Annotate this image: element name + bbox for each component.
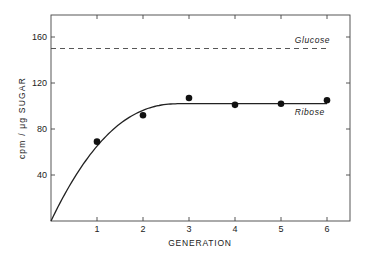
x-tick-label: 1: [94, 224, 99, 234]
y-axis-label: cpm / μg SUGAR: [17, 77, 27, 159]
x-tick-label: 3: [186, 224, 191, 234]
y-tick-label: 160: [32, 32, 47, 42]
annotation-ribose: Ribose: [295, 107, 325, 117]
x-tick-label: 6: [324, 224, 329, 234]
y-tick-label: 80: [37, 124, 47, 134]
y-tick-label: 120: [32, 78, 47, 88]
chart-svg: 4080120160 123456 GlucoseRibose GENERATI…: [0, 0, 369, 253]
ribose-point: [140, 112, 147, 119]
plot-border: [51, 15, 350, 221]
y-axis: 4080120160: [32, 32, 350, 180]
x-axis: 123456: [94, 15, 329, 234]
ribose-point: [232, 102, 239, 109]
ribose-point: [186, 95, 193, 102]
plot-frame: [51, 15, 350, 221]
x-tick-label: 2: [140, 224, 145, 234]
annotations: GlucoseRibose: [295, 35, 330, 117]
ribose-point: [324, 97, 331, 104]
chart-container: 4080120160 123456 GlucoseRibose GENERATI…: [0, 0, 369, 253]
ribose-point: [278, 100, 285, 107]
ribose-point: [94, 138, 101, 145]
ribose-curve: [51, 104, 327, 221]
y-tick-label: 40: [37, 170, 47, 180]
plot-series: [51, 49, 330, 222]
x-tick-label: 4: [232, 224, 237, 234]
annotation-glucose: Glucose: [295, 35, 330, 45]
x-axis-label: GENERATION: [168, 238, 232, 248]
x-tick-label: 5: [278, 224, 283, 234]
